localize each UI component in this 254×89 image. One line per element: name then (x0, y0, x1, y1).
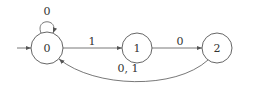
transition-label-2-0: 0, 1 (118, 62, 139, 75)
state-0: 0 (31, 32, 63, 64)
state-1: 1 (122, 33, 152, 63)
transition-0-0 (40, 22, 54, 33)
state-label-1: 1 (134, 42, 141, 55)
state-label-0: 0 (44, 42, 51, 55)
state-2: 2 (202, 33, 232, 63)
transition-label-0-0: 0 (44, 5, 51, 18)
transition-label-0-1: 1 (89, 35, 96, 48)
state-label-2: 2 (214, 42, 221, 55)
automaton-diagram: 0 1 0 0, 1 0 1 2 (0, 0, 254, 89)
transition-label-1-2: 0 (177, 35, 184, 48)
